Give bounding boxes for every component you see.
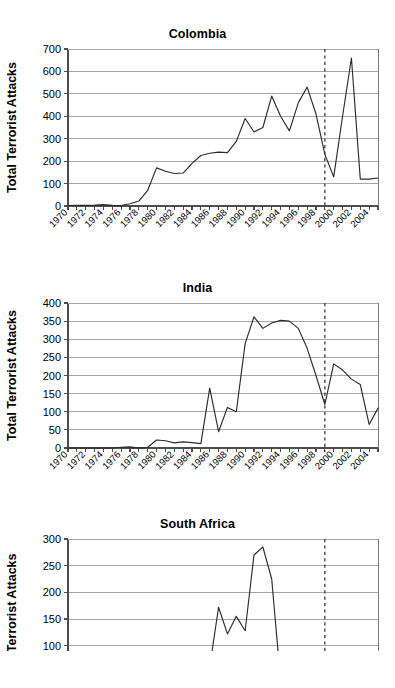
x-tick-label: 1982 xyxy=(153,448,176,471)
y-axis-title: Total Terrorist Attacks xyxy=(5,553,19,651)
y-tick-label: 600 xyxy=(43,65,61,77)
x-tick-label: 1998 xyxy=(295,206,318,229)
x-tick-label: 1978 xyxy=(118,448,141,471)
x-tick-label: 1986 xyxy=(188,206,211,229)
y-tick-label: 250 xyxy=(43,351,61,363)
x-tick-label: 1998 xyxy=(295,448,318,471)
plot-area: 0501001502002503001970197219741976197819… xyxy=(0,531,395,651)
y-tick-label: 300 xyxy=(43,132,61,144)
x-tick-label: 2000 xyxy=(312,448,335,471)
y-tick-label: 200 xyxy=(43,155,61,167)
chart-panel-india: India05010015020025030035040019701972197… xyxy=(0,268,395,504)
x-tick-label: 1988 xyxy=(206,206,229,229)
y-tick-label: 350 xyxy=(43,315,61,327)
y-tick-label: 100 xyxy=(43,177,61,189)
x-tick-label: 1988 xyxy=(206,448,229,471)
plot-area: 0501001502002503003504001970197219741976… xyxy=(0,295,395,495)
y-tick-label: 150 xyxy=(43,613,61,625)
x-tick-label: 1992 xyxy=(242,448,265,471)
x-tick-label: 1994 xyxy=(259,448,282,471)
x-tick-label: 1980 xyxy=(135,448,158,471)
x-tick-label: 1970 xyxy=(47,448,70,471)
data-series-line xyxy=(68,547,298,651)
y-tick-label: 500 xyxy=(43,87,61,99)
chart-title: South Africa xyxy=(0,504,395,531)
x-tick-label: 1976 xyxy=(100,448,123,471)
y-axis-title: Total Terrorist Attacks xyxy=(5,309,19,440)
x-tick-label: 2004 xyxy=(348,448,371,471)
y-tick-label: 100 xyxy=(43,639,61,650)
x-tick-label: 1982 xyxy=(153,206,176,229)
x-tick-label: 1976 xyxy=(100,206,123,229)
x-tick-label: 1990 xyxy=(224,206,247,229)
data-series-line xyxy=(68,316,378,447)
y-tick-label: 200 xyxy=(43,586,61,598)
y-tick-label: 300 xyxy=(43,333,61,345)
x-tick-label: 1972 xyxy=(64,206,87,229)
x-tick-label: 1970 xyxy=(47,206,70,229)
terrorist-attacks-figure: Colombia01002003004005006007001970197219… xyxy=(0,0,395,660)
x-tick-label: 1990 xyxy=(224,448,247,471)
x-tick-label: 2004 xyxy=(348,206,371,229)
chart-panel-south-africa: South Africa0501001502002503001970197219… xyxy=(0,504,395,660)
x-tick-label: 1974 xyxy=(82,206,105,229)
plot-area: 0100200300400500600700197019721974197619… xyxy=(0,41,395,259)
y-tick-label: 250 xyxy=(43,559,61,571)
x-tick-label: 2000 xyxy=(312,206,335,229)
x-tick-label: 1978 xyxy=(118,206,141,229)
y-tick-label: 100 xyxy=(43,405,61,417)
y-tick-label: 400 xyxy=(43,297,61,309)
x-tick-label: 1984 xyxy=(171,448,194,471)
x-tick-label: 1986 xyxy=(188,448,211,471)
x-tick-label: 1980 xyxy=(135,206,158,229)
chart-title: Colombia xyxy=(0,0,395,41)
y-tick-label: 700 xyxy=(43,43,61,55)
x-tick-label: 1996 xyxy=(277,448,300,471)
y-tick-label: 200 xyxy=(43,369,61,381)
x-tick-label: 2002 xyxy=(330,448,353,471)
x-tick-label: 1972 xyxy=(64,448,87,471)
chart-title: India xyxy=(0,268,395,295)
y-axis-title: Total Terrorist Attacks xyxy=(5,61,19,192)
x-tick-label: 2002 xyxy=(330,206,353,229)
y-tick-label: 150 xyxy=(43,387,61,399)
x-tick-label: 1992 xyxy=(242,206,265,229)
x-tick-label: 1984 xyxy=(171,206,194,229)
x-tick-label: 1996 xyxy=(277,206,300,229)
x-tick-label: 1974 xyxy=(82,448,105,471)
y-tick-label: 400 xyxy=(43,110,61,122)
x-tick-label: 1994 xyxy=(259,206,282,229)
y-tick-label: 50 xyxy=(49,423,61,435)
y-tick-label: 300 xyxy=(43,533,61,545)
chart-panel-colombia: Colombia01002003004005006007001970197219… xyxy=(0,0,395,268)
